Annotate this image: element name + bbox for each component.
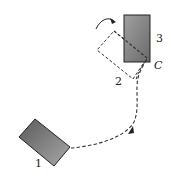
label-position-2: 2 [115,75,122,88]
block-position-1 [19,119,70,166]
label-position-1: 1 [35,157,42,170]
trajectory-arrowhead-icon [128,126,134,134]
label-position-3: 3 [156,32,163,45]
label-point-c: C [154,59,163,72]
block-position-3 [124,15,150,62]
rotation-arrowhead-icon [110,18,116,24]
diagram-canvas: 1 2 3 C [0,0,171,179]
trajectory-path [71,59,147,148]
